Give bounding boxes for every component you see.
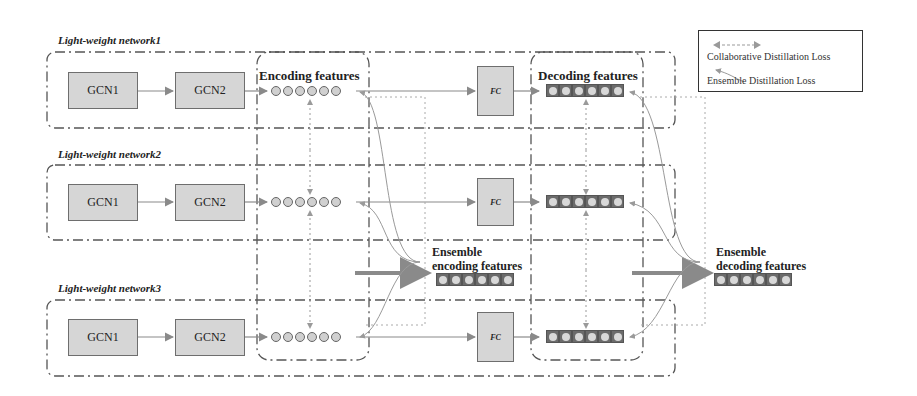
decoding-features-label: Decoding features [538,68,638,84]
encoding-features-net2 [271,197,341,207]
gcn1-box-net2: GCN1 [68,184,138,221]
encoding-features-net3 [271,332,341,342]
gcn1-box-net3: GCN1 [68,319,138,356]
fc-box-net2: FC [477,178,514,226]
decoding-features-net2 [546,195,624,208]
legend-collaborative-label: Collaborative Distillation Loss [707,51,830,62]
decoding-features-net3 [546,330,624,343]
ensemble-encoding-features [436,273,514,286]
ensemble-decoding-label-2: decoding features [716,258,806,274]
ensemble-decoding-features [714,273,792,286]
network3-title: Light-weight network3 [58,282,161,294]
gcn1-box-net1: GCN1 [68,72,138,109]
legend-box: Collaborative Distillation Loss Ensemble… [698,30,863,92]
network1-title: Light-weight network1 [58,34,161,46]
diagram-canvas: Light-weight network1 GCN1 GCN2 Encoding… [0,0,917,396]
gcn2-box-net1: GCN2 [175,72,245,109]
ensemble-encoding-label-2: encoding features [432,258,522,274]
decoding-features-net1 [546,84,624,97]
network2-title: Light-weight network2 [58,148,161,160]
fc-box-net3: FC [477,312,514,362]
legend-ensemble-label: Ensemble Distillation Loss [707,75,815,86]
encoding-features-net1 [271,86,341,96]
gcn2-box-net2: GCN2 [175,184,245,221]
fc-box-net1: FC [477,66,514,116]
gcn2-box-net3: GCN2 [175,319,245,356]
encoding-features-label: Encoding features [259,68,360,84]
